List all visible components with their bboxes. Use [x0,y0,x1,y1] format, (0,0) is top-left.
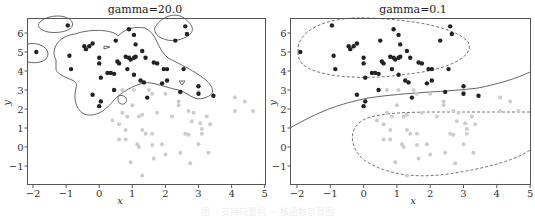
data-point-class0 [233,109,237,113]
y-tick-label: −1 [272,161,287,172]
data-point-class1 [178,90,182,94]
data-point-class0 [420,111,424,115]
data-point-class1 [425,81,429,85]
data-point-class0 [251,109,255,113]
data-point-class0 [375,118,379,122]
x-tick-label: 3 [460,188,466,199]
data-point-class0 [470,115,474,119]
data-point-class1 [420,61,424,65]
data-point-class0 [442,99,446,103]
data-point-class0 [473,122,477,126]
data-point-class1 [87,44,91,48]
data-point-class0 [385,111,389,115]
y-tick-label: 6 [280,28,286,39]
figure-caption: 图 ·· 支持向量机 ··· 核函数示意图 [0,205,535,219]
data-point-class0 [435,115,439,119]
data-point-class1 [97,56,101,60]
data-point-class1 [398,42,402,46]
data-point-class1 [408,56,412,60]
y-tick-label: 3 [280,85,286,96]
data-point-class0 [465,132,469,136]
data-point-class0 [206,151,210,155]
data-point-class0 [471,151,475,155]
data-point-class0 [208,122,212,126]
chart-left-svg: gamma=20.0 −2−1012345−10123456 x y [0,0,268,221]
data-point-class0 [160,142,164,146]
data-point-class1 [363,99,367,103]
data-point-class1 [97,61,101,65]
data-point-class0 [415,143,419,147]
data-point-class1 [406,80,410,84]
x-tick-label: 4 [494,188,500,199]
x-tick-label: −2 [26,188,41,199]
data-point-class0 [463,121,467,125]
y-tick-label: 6 [17,28,23,39]
data-point-class1 [143,56,147,60]
data-point-class1 [133,42,137,46]
data-point-class1 [67,54,71,58]
data-point-class0 [405,174,409,178]
y-tick-label: 2 [17,104,23,115]
data-point-class1 [430,78,434,82]
data-point-class1 [355,41,359,45]
y-axis-label: y [1,100,12,107]
data-point-class0 [465,127,469,131]
data-point-class0 [405,128,409,132]
data-point-class1 [117,61,121,65]
data-point-class1 [381,61,385,65]
data-point-class0 [385,88,389,92]
data-point-class1 [355,93,359,97]
data-point-class0 [393,160,397,164]
data-point-class1 [127,27,131,31]
data-point-class0 [425,142,429,146]
data-point-class0 [152,156,156,160]
data-point-class1 [398,55,402,59]
data-point-class0 [187,109,191,113]
data-point-class0 [498,96,502,100]
data-point-class1 [112,72,116,76]
data-point-class1 [125,67,129,71]
data-point-class0 [388,137,392,141]
data-point-class0 [178,151,182,155]
data-point-class0 [129,160,133,164]
chart-gamma-0-1: gamma=0.1 −2−1012345−10123456 x y [268,0,535,221]
data-point-class0 [453,161,457,165]
data-point-class1 [405,49,409,53]
data-point-class0 [205,115,209,119]
data-point-class0 [130,103,134,107]
data-point-class1 [476,94,480,98]
data-point-class0 [508,99,512,103]
data-point-class0 [140,113,144,117]
data-point-class1 [396,33,400,37]
data-point-class0 [462,142,466,146]
data-point-class0 [412,88,416,92]
data-point-class0 [428,92,432,96]
data-point-class0 [233,96,237,100]
data-point-class0 [177,99,181,103]
data-point-class1 [69,67,73,71]
data-point-class0 [405,113,409,117]
data-point-class1 [97,104,101,108]
data-point-class0 [382,137,386,141]
data-point-class1 [390,67,394,71]
data-point-class1 [448,24,452,28]
data-point-class0 [144,132,148,136]
data-point-class1 [298,50,302,54]
chart-right-svg: gamma=0.1 −2−1012345−10123456 x y [268,0,535,221]
right-scatter-points [298,23,520,177]
data-point-class0 [190,119,194,123]
data-point-class0 [243,99,247,103]
data-point-class1 [391,27,395,31]
x-tick-label: −2 [290,188,305,199]
data-point-class1 [331,54,335,58]
x-tick-label: 5 [262,188,268,199]
data-point-class0 [402,145,406,149]
data-point-class1 [155,61,159,65]
data-point-class0 [382,122,386,126]
data-point-class1 [361,104,365,108]
data-point-class0 [200,127,204,131]
data-point-class1 [90,41,94,45]
data-point-class0 [457,111,461,115]
data-point-class0 [124,128,128,132]
data-point-class0 [397,88,401,92]
